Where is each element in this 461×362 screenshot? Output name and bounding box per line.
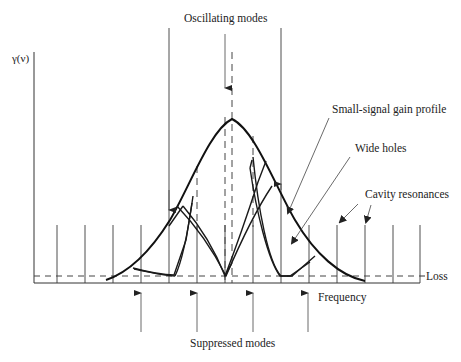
saturated-gain-curve [133, 160, 315, 276]
x-axis: Frequency [34, 283, 420, 304]
gain-profile-curve [106, 119, 365, 281]
gain-profile-label: Small-signal gain profile [332, 103, 446, 116]
suppressed-modes-label: Suppressed modes [190, 337, 276, 350]
loss-label: Loss [426, 270, 448, 282]
gain-holes [134, 157, 310, 276]
wide-holes-label: Wide holes [355, 142, 407, 154]
y-axis-label: γ(ν) [11, 52, 29, 65]
suppressed-modes-annotation: Suppressed modes [141, 293, 308, 350]
cavity-resonances-annotation: Cavity resonances [340, 188, 450, 222]
x-axis-label: Frequency [318, 291, 367, 304]
y-axis: γ(ν) [11, 52, 34, 283]
loss-line: Loss [34, 270, 448, 282]
cavity-resonances-label: Cavity resonances [365, 188, 450, 201]
cavity-resonances [57, 225, 420, 283]
oscillating-modes-label: Oscillating modes [184, 12, 268, 25]
laser-gain-diagram: γ(ν) Frequency Loss [0, 0, 461, 362]
